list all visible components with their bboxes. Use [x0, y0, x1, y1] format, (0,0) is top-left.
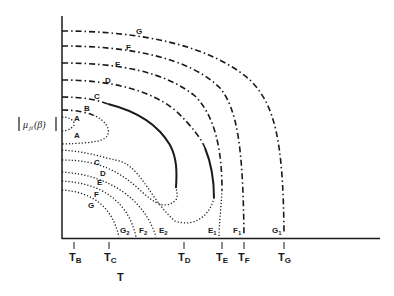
curve-e-upper	[62, 63, 222, 190]
tick-label-tb: TB	[69, 251, 82, 265]
upper-curve-labels: G F E D C B A	[74, 27, 142, 123]
curve-g-lower	[62, 190, 119, 237]
curve-c-solid	[108, 104, 176, 188]
curve-d-solid	[205, 148, 214, 198]
curve-c-lower	[62, 160, 177, 205]
label-e-upper: E	[115, 60, 121, 69]
curve-d-lower	[62, 150, 214, 223]
tick-label-tc: TC	[104, 251, 117, 265]
root-e2: E2	[159, 226, 168, 236]
root-e1: E1	[208, 226, 217, 236]
tick-label-tg: TG	[278, 251, 291, 265]
label-c-lower: C	[94, 158, 100, 167]
root-labels: G2 F2 E2 E1 F1 G1	[120, 226, 282, 236]
label-f-upper: F	[126, 43, 131, 52]
label-a-lower: A	[74, 131, 80, 140]
label-d-upper: D	[105, 76, 111, 85]
label-f-lower: F	[94, 190, 99, 199]
label-g-upper: G	[136, 27, 142, 36]
root-g2: G2	[120, 226, 130, 236]
y-label-text: μji(β)	[22, 119, 46, 132]
curve-e-lower-tail	[219, 190, 222, 237]
tick-label-te: TE	[216, 251, 229, 265]
label-c-upper: C	[94, 92, 100, 101]
label-g-lower: G	[88, 201, 94, 210]
root-g1: G1	[272, 226, 282, 236]
lower-curves	[62, 150, 214, 237]
label-b: B	[84, 104, 90, 113]
curve-a-loop	[62, 117, 74, 131]
y-axis-title: μji(β)	[19, 117, 56, 132]
label-a-upper: A	[74, 114, 80, 123]
tick-label-tf: TF	[238, 251, 250, 265]
root-f2: F2	[139, 226, 148, 236]
curve-c-upper	[62, 97, 108, 104]
x-ticks	[74, 242, 284, 249]
label-e-lower: E	[97, 178, 103, 187]
diagram-figure: G F E D C B A A C D E F G G2 F2 E2 E1 F1…	[0, 0, 394, 296]
root-f1: F1	[233, 226, 242, 236]
tick-label-td: TD	[178, 251, 191, 265]
x-axis-title: T	[117, 271, 124, 283]
label-d-lower: D	[100, 169, 106, 178]
x-tick-labels: TB TC TD TE TF TG	[69, 251, 291, 265]
upper-curves	[62, 31, 284, 237]
